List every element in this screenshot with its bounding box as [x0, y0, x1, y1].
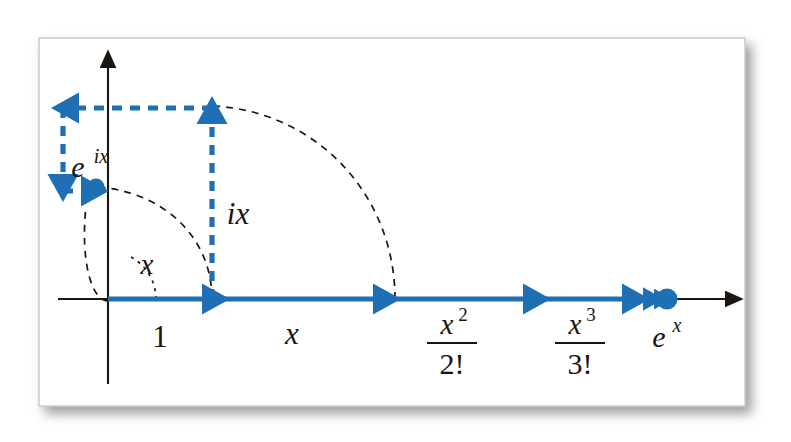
e-to-x-base: e: [652, 320, 665, 353]
label-one: 1: [152, 319, 168, 354]
x-cubed-numerator: x: [568, 308, 582, 340]
figure-frame: [39, 38, 745, 406]
label-ix-segment: ix: [227, 196, 250, 231]
label-angle-x: x: [140, 248, 154, 280]
label-x-segment: x: [284, 316, 299, 351]
x-cubed-denominator: 3!: [568, 347, 593, 380]
figure-root: 1 x x 2 2! x 3 3! e x ix x e ix: [0, 0, 791, 442]
e-to-x-point: [657, 289, 678, 310]
euler-series-diagram: 1 x x 2 2! x 3 3! e x ix x e ix: [0, 0, 791, 442]
x-cubed-exponent: 3: [586, 304, 596, 325]
e-to-x-exponent: x: [672, 314, 682, 336]
e-to-ix-base: e: [71, 150, 84, 183]
e-to-ix-exponent: ix: [94, 145, 109, 167]
x-squared-numerator: x: [440, 308, 454, 340]
figure-frame-rect: [39, 38, 745, 406]
x-squared-exponent: 2: [458, 304, 468, 325]
x-squared-denominator: 2!: [440, 347, 465, 380]
e-to-ix-point: [88, 179, 105, 196]
